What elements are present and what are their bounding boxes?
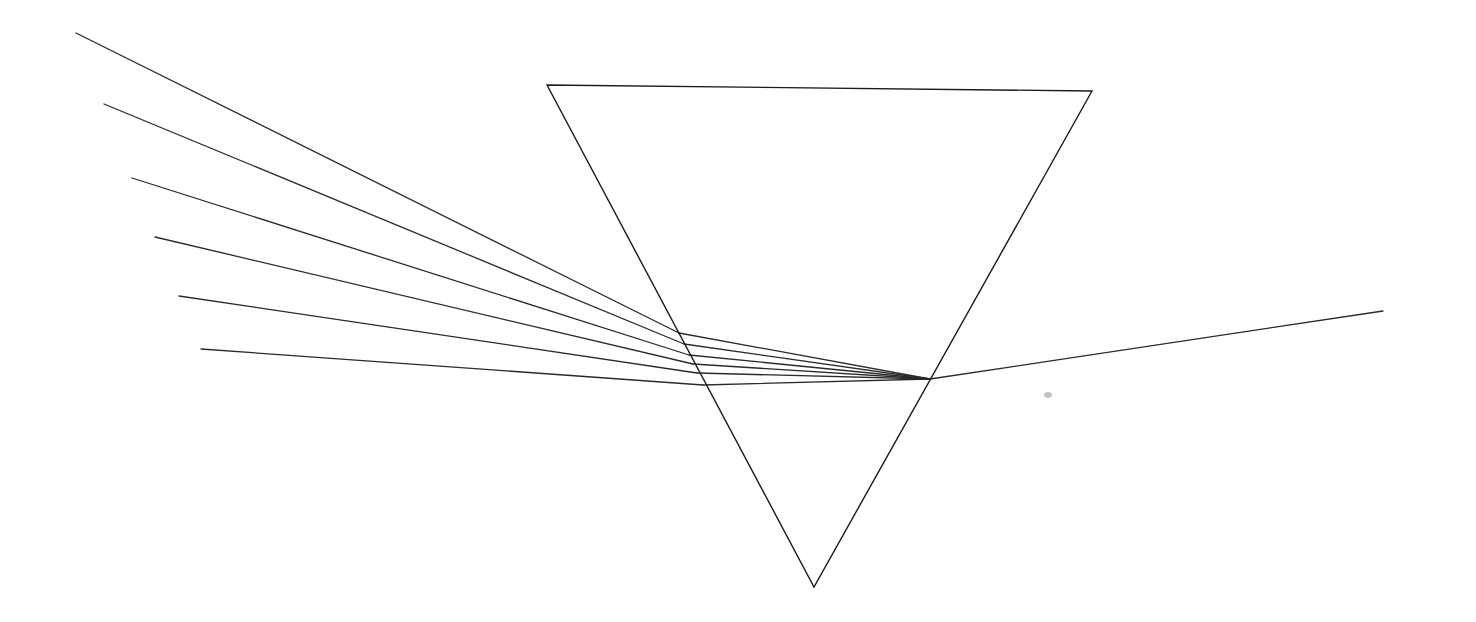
internal-ray-6 (703, 379, 930, 385)
smudge-mark (1044, 392, 1052, 398)
incident-ray-5 (179, 296, 697, 373)
incident-ray-6 (201, 349, 703, 385)
internal-ray-4 (693, 364, 930, 379)
incident-ray-3 (132, 178, 689, 355)
internal-rays (679, 333, 930, 385)
incident-ray-1 (76, 33, 679, 333)
prism-diagram (0, 0, 1476, 622)
incident-ray-2 (104, 104, 684, 344)
exit-ray (930, 311, 1383, 379)
internal-ray-1 (679, 333, 930, 379)
